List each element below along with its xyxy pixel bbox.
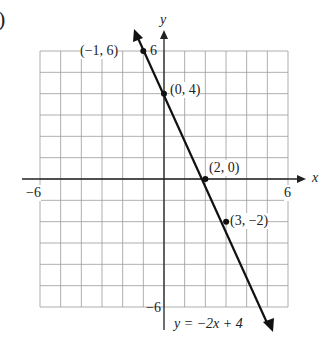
point-neg1-6 [140, 48, 146, 54]
y-axis-label: y [160, 12, 166, 28]
point-label-2-0: (2, 0) [209, 160, 239, 176]
ytick-max: 6 [150, 43, 157, 59]
point-label-3-neg2: (3, −2) [230, 213, 268, 229]
point-2-0 [202, 176, 208, 182]
x-axis-arrow-icon [297, 175, 306, 183]
point-label-neg1-6: (−1, 6) [80, 43, 118, 59]
point-3-neg2 [223, 219, 229, 225]
point-0-4 [161, 91, 167, 97]
xtick-min: −6 [26, 185, 41, 201]
equation-label: y = −2x + 4 [174, 316, 243, 332]
ytick-min: −6 [146, 300, 161, 316]
point-label-0-4: (0, 4) [170, 82, 200, 98]
graph [0, 0, 322, 348]
function-line [137, 36, 268, 325]
x-axis-label: x [312, 170, 318, 186]
y-axis-arrow-icon [160, 30, 168, 39]
xtick-max: 6 [284, 185, 291, 201]
